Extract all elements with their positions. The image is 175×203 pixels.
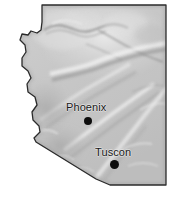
n-plateau-mottle <box>64 9 100 27</box>
city-label-phoenix: Phoenix <box>66 101 106 113</box>
city-dot-tuscon[interactable] <box>110 160 119 169</box>
ne-plateau-shade <box>134 24 166 44</box>
city-label-tuscon: Tuscon <box>95 146 131 158</box>
arizona-relief-map-figure: Phoenix Tuscon <box>0 0 175 203</box>
city-dot-phoenix[interactable] <box>84 117 92 125</box>
